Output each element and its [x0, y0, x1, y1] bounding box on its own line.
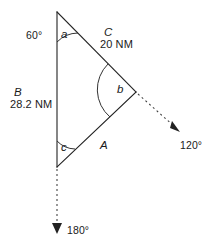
- bearing-120-label: 120°: [180, 139, 202, 151]
- angle-arc-b: [97, 64, 110, 117]
- bearing-180-arrowhead: [52, 223, 62, 234]
- side-a-line: [57, 92, 136, 167]
- side-b-value-label: 28.2 NM: [10, 98, 52, 110]
- side-c-value-label: 20 NM: [100, 38, 133, 50]
- angle-b-label: b: [117, 83, 124, 95]
- side-c-line: [57, 12, 136, 92]
- bearing-180-label: 180°: [67, 224, 89, 236]
- side-a-name-label: A: [100, 139, 108, 151]
- bearing-120-ray: [138, 94, 175, 127]
- bearing-60-label: 60°: [26, 29, 42, 41]
- side-c-name-label: C: [104, 26, 112, 38]
- angle-c-label: c: [61, 141, 67, 153]
- bearing-120-arrowhead: [170, 121, 180, 132]
- side-b-name-label: B: [14, 86, 22, 98]
- vector-triangle-diagram: 60° a C 20 NM B 28.2 NM b A c 120° 180°: [0, 0, 215, 246]
- angle-a-label: a: [61, 28, 68, 40]
